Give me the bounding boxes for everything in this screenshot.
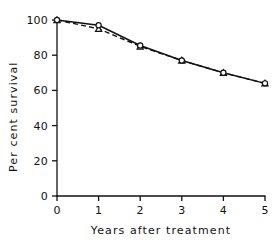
solid-survival-curve	[57, 20, 265, 83]
data-point-marker	[96, 23, 101, 28]
y-tick-label: 60	[34, 84, 48, 97]
data-point-marker	[262, 81, 267, 86]
data-point-marker	[221, 70, 226, 75]
x-tick-label: 5	[261, 204, 268, 217]
y-axis-ticks	[52, 20, 57, 196]
y-axis-tick-labels: 020406080100	[26, 14, 48, 203]
data-point-marker	[179, 58, 184, 63]
x-axis-title: Years after treatment	[90, 224, 231, 237]
x-tick-label: 3	[178, 204, 185, 217]
y-tick-label: 40	[34, 120, 48, 133]
y-tick-label: 80	[34, 49, 48, 62]
y-tick-label: 20	[34, 155, 48, 168]
x-tick-label: 1	[95, 204, 102, 217]
x-tick-label: 0	[53, 204, 60, 217]
chart-canvas: 020406080100 012345 Per cent survival Ye…	[0, 0, 279, 245]
x-axis-ticks	[57, 196, 265, 201]
y-axis-title: Per cent survival	[7, 62, 20, 172]
data-point-marker	[54, 17, 59, 22]
y-tick-label: 0	[41, 190, 48, 203]
x-tick-label: 4	[220, 204, 227, 217]
x-axis-tick-labels: 012345	[53, 204, 268, 217]
x-tick-label: 2	[137, 204, 144, 217]
survival-chart: 020406080100 012345 Per cent survival Ye…	[0, 0, 279, 245]
y-tick-label: 100	[26, 14, 48, 27]
dashed-survival-curve	[57, 20, 265, 83]
data-point-marker	[138, 43, 143, 48]
